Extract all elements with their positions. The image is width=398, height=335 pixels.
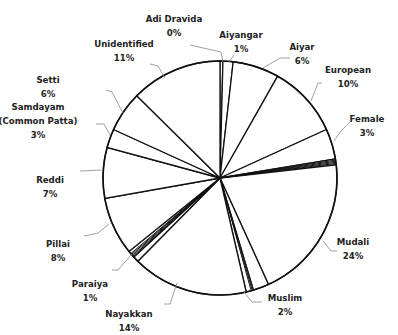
leader-line: [84, 224, 109, 236]
slice-label: Paraiya1%: [72, 279, 108, 303]
slice-label: Aiyar6%: [289, 42, 315, 66]
leader-line: [112, 254, 132, 270]
slice-label: European10%: [325, 65, 371, 89]
leader-line: [323, 241, 337, 251]
slice-label: Unidentified11%: [94, 39, 154, 63]
leader-line: [334, 122, 350, 141]
slice-label: Muslim2%: [268, 293, 303, 317]
leader-line: [106, 90, 123, 113]
leader-line: [80, 170, 101, 171]
slice-label: Nayakkan14%: [105, 309, 152, 333]
slice-label: Aiyangar1%: [219, 30, 263, 54]
slice-label: Pillai8%: [46, 239, 70, 263]
slice-label: Reddi7%: [36, 175, 64, 199]
pie-chart: Adi Dravida0%Aiyangar1%Aiyar6%European10…: [0, 0, 398, 335]
slice-label: Adi Dravida0%: [146, 14, 203, 38]
leader-line: [190, 45, 223, 62]
slice-label: Samdayam(Common Patta)3%: [0, 102, 78, 140]
leader-line: [244, 292, 262, 302]
leader-line: [311, 83, 322, 101]
slice-label: Mudali24%: [337, 237, 370, 261]
leader-line: [96, 124, 110, 135]
leader-line: [263, 58, 290, 68]
slice-label: Setti6%: [36, 75, 59, 99]
slice-label: Female3%: [350, 114, 385, 138]
